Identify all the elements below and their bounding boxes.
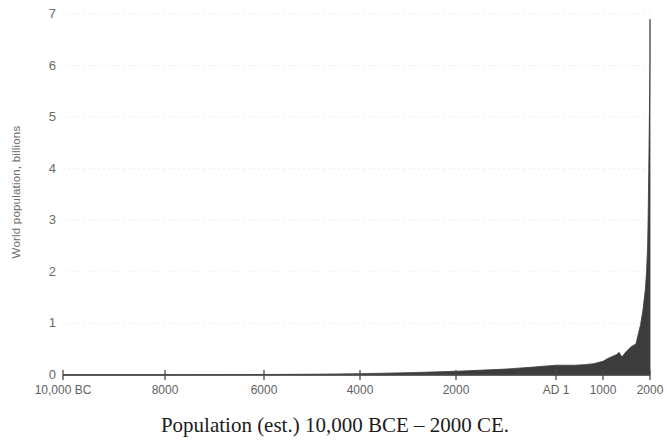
area-series-group bbox=[63, 19, 650, 375]
x-tick-label: 6000 bbox=[251, 383, 278, 397]
x-tick-label: 1000 bbox=[590, 383, 617, 397]
x-tick-label: 10,000 BC bbox=[35, 383, 92, 397]
y-axis-title: World population, billions bbox=[10, 92, 22, 292]
x-tick-label: 2000 bbox=[443, 383, 470, 397]
y-tick-label: 5 bbox=[30, 109, 56, 124]
x-tick-label: 2000 bbox=[637, 383, 664, 397]
x-tick-label: 4000 bbox=[347, 383, 374, 397]
y-tick-label: 7 bbox=[30, 6, 56, 21]
chart-title: Population (est.) 10,000 BCE – 2000 CE. bbox=[0, 413, 670, 438]
y-tick-label: 6 bbox=[30, 58, 56, 73]
chart-plot-area bbox=[0, 0, 670, 446]
x-tick-label: AD 1 bbox=[543, 383, 570, 397]
gridlines-group bbox=[63, 14, 650, 323]
y-tick-label: 2 bbox=[30, 264, 56, 279]
y-tick-label: 4 bbox=[30, 161, 56, 176]
population-area-path bbox=[63, 19, 650, 375]
x-tick-label: 8000 bbox=[152, 383, 179, 397]
y-tick-label: 3 bbox=[30, 212, 56, 227]
y-tick-label: 0 bbox=[30, 367, 56, 382]
population-chart-figure: World population, billions 01234567 10,0… bbox=[0, 0, 670, 446]
y-tick-label: 1 bbox=[30, 315, 56, 330]
